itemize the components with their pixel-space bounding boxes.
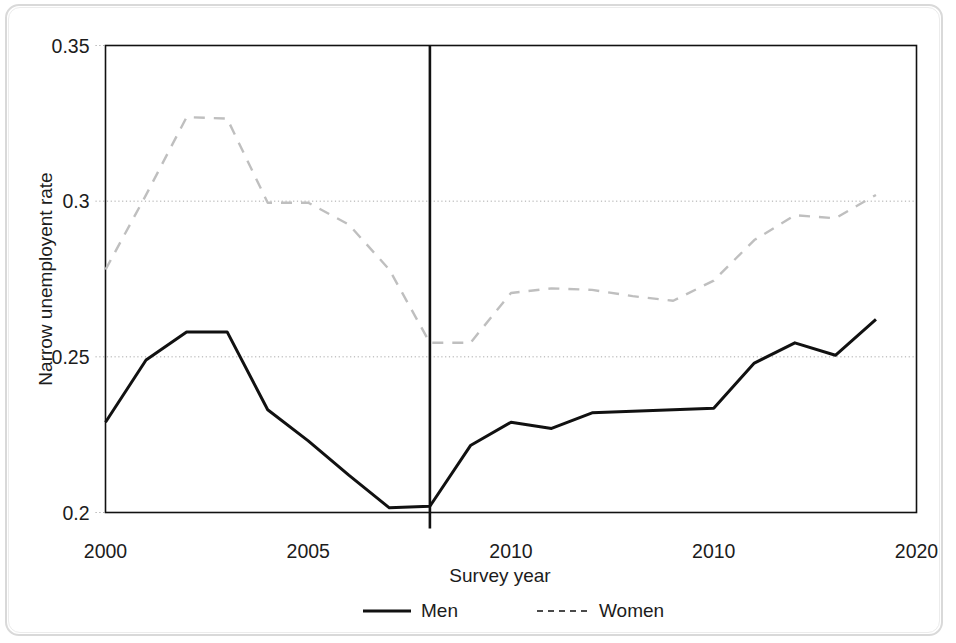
x-tick-label: 2005 [287,540,331,562]
chart-legend: MenWomen [363,600,664,621]
series-line-women [106,117,876,343]
x-tick-label: 2010 [489,540,533,562]
series-line-men [106,319,876,507]
line-chart-figure: 0.20.250.30.35 20002005201020102020 Narr… [0,0,956,643]
y-tick-label: 0.35 [52,35,90,57]
x-axis-title: Survey year [449,565,551,586]
y-axis-title: Narrow unemployent rate [35,172,56,385]
legend-label-men: Men [421,600,458,621]
y-axis-ticks: 0.20.250.30.35 [52,35,90,524]
legend-label-women: Women [599,600,664,621]
data-series [106,117,876,508]
y-tick-label: 0.2 [62,502,89,524]
figure-page: 0.20.250.30.35 20002005201020102020 Narr… [0,0,956,643]
plot-frame [106,46,917,513]
x-axis-ticks: 20002005201020102020 [84,540,939,562]
chart-canvas: 0.20.250.30.35 20002005201020102020 Narr… [0,0,956,643]
x-tick-label: 2000 [84,540,128,562]
x-tick-label: 2010 [692,540,736,562]
y-tick-label: 0.3 [62,190,89,212]
gridlines [96,46,917,513]
y-tick-label: 0.25 [52,346,90,368]
x-tick-label: 2020 [895,540,939,562]
